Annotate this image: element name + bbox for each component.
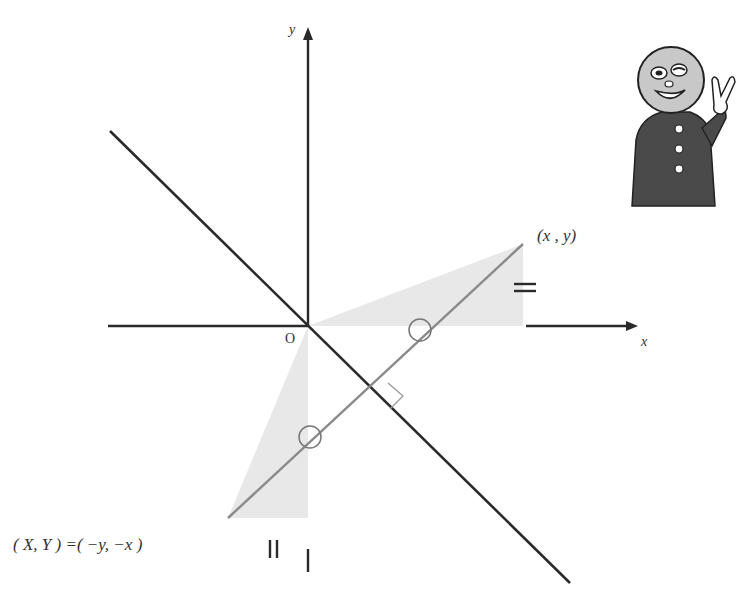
shaded-triangle-original	[308, 244, 523, 326]
y-axis-label: y	[289, 22, 295, 38]
mirror-line	[110, 131, 570, 583]
shaded-triangle-reflected	[228, 326, 308, 518]
connecting-segment	[228, 244, 523, 518]
original-point-label: (x , y)	[537, 226, 576, 246]
x-axis-label: x	[641, 334, 647, 350]
equal-mark-vertical	[270, 540, 277, 558]
mascot-character	[632, 47, 735, 206]
origin-label: O	[285, 331, 295, 347]
x-axis-arrow-icon	[626, 321, 638, 331]
reflected-point-label: ( X, Y ) =( −y, −x )	[13, 535, 142, 555]
y-axis-arrow-icon	[303, 27, 313, 40]
diagram-canvas	[0, 0, 751, 605]
